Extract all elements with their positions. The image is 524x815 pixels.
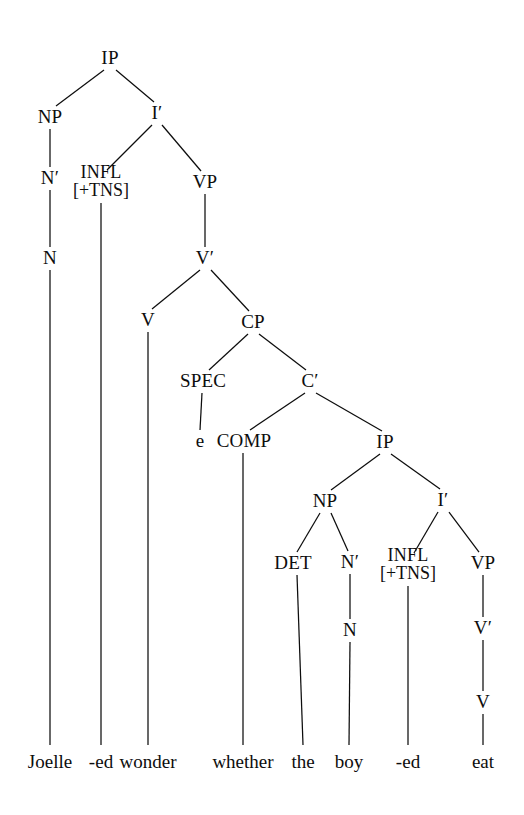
node-label: VP xyxy=(193,171,218,192)
tree-node-v2: V xyxy=(476,692,490,711)
node-label: INFL xyxy=(81,162,122,182)
node-label: V′ xyxy=(474,617,492,638)
node-label: V xyxy=(141,309,155,330)
terminal-t-boy: boy xyxy=(335,751,364,773)
syntax-tree-figure: { "figure": { "title": "X-bar syntax tre… xyxy=(0,0,524,815)
node-label: N′ xyxy=(41,167,59,188)
tree-node-ip1: IP xyxy=(101,48,118,67)
tree-node-np2: NP xyxy=(313,491,338,510)
tree-node-ip2: IP xyxy=(376,432,393,451)
node-label: NP xyxy=(38,106,63,127)
node-label: N′ xyxy=(341,551,359,572)
node-label: DET xyxy=(274,552,312,573)
tree-node-vp2: VP xyxy=(471,553,496,572)
node-label: VP xyxy=(471,552,496,573)
node-label: I′ xyxy=(438,489,449,510)
tree-node-cbar1: C′ xyxy=(301,371,318,390)
node-feature-bundle: [+TNS] xyxy=(380,564,436,582)
tree-node-infl2: INFL[+TNS] xyxy=(380,546,436,583)
tree-node-infl1: INFL[+TNS] xyxy=(73,163,129,200)
tree-node-nbar2: N′ xyxy=(341,552,359,571)
node-label: INFL xyxy=(388,545,429,565)
node-label: N xyxy=(43,247,57,268)
node-label: I′ xyxy=(152,102,163,123)
tree-node-layer: IPNPI′N′INFL[+TNS]VPNV′VCPSPECC′eCOMPIPN… xyxy=(0,0,524,815)
tree-node-cp1: CP xyxy=(241,312,265,331)
tree-node-nbar1: N′ xyxy=(41,168,59,187)
node-label: N xyxy=(343,619,357,640)
node-label: C′ xyxy=(301,370,318,391)
node-label: IP xyxy=(376,431,393,452)
tree-node-comp1: COMP xyxy=(217,431,272,450)
tree-node-vp1: VP xyxy=(193,172,218,191)
terminal-t-whether: whether xyxy=(212,751,273,773)
node-label: SPEC xyxy=(180,370,226,391)
node-label: IP xyxy=(101,47,118,68)
tree-node-n2: N xyxy=(343,620,357,639)
tree-node-n1: N xyxy=(43,248,57,267)
node-feature-bundle: [+TNS] xyxy=(73,181,129,199)
tree-node-det2: DET xyxy=(274,553,312,572)
terminal-t-joelle: Joelle xyxy=(28,751,72,773)
node-label: V′ xyxy=(196,247,214,268)
tree-node-e1: e xyxy=(196,431,205,450)
node-label: V xyxy=(476,691,490,712)
terminal-t-the: the xyxy=(291,751,314,773)
tree-node-vbar1: V′ xyxy=(196,248,214,267)
terminal-t-wonder: wonder xyxy=(120,751,177,773)
tree-node-ibar1: I′ xyxy=(152,103,163,122)
tree-node-spec1: SPEC xyxy=(180,371,226,390)
node-label: NP xyxy=(313,490,338,511)
terminal-t-ed1: -ed xyxy=(89,751,113,773)
tree-node-ibar2: I′ xyxy=(438,490,449,509)
node-label: CP xyxy=(241,311,265,332)
terminal-t-ed2: -ed xyxy=(396,751,420,773)
tree-node-vbar2: V′ xyxy=(474,618,492,637)
node-label: COMP xyxy=(217,430,272,451)
terminal-t-eat: eat xyxy=(472,751,494,773)
node-label: e xyxy=(196,430,205,451)
tree-node-np1: NP xyxy=(38,107,63,126)
tree-node-v1: V xyxy=(141,310,155,329)
